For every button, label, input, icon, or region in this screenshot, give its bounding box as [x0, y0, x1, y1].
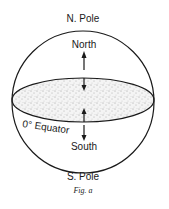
north-label: North: [72, 39, 96, 50]
south-arrow-icon: [82, 125, 87, 141]
south-label: South: [71, 141, 97, 152]
north-pole-label: N. Pole: [67, 13, 100, 24]
south-pole-label: S. Pole: [67, 171, 100, 182]
globe-diagram: N. Pole North 0° Equator South S. Pole F…: [0, 0, 169, 209]
north-arrow-icon: [82, 51, 87, 70]
equatorial-plane: [12, 78, 154, 122]
figure-caption: Fig. a: [72, 186, 92, 195]
